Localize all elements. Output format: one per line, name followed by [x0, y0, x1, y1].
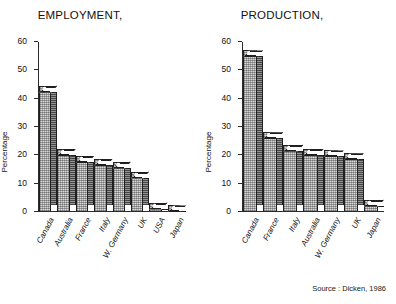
- panel-title-production: PRODUCTION,: [198, 9, 396, 21]
- bar-slot: [303, 42, 323, 211]
- bar-front-face: [263, 132, 277, 211]
- bar-group-employment: [39, 42, 186, 211]
- y-tick: 0: [34, 211, 38, 212]
- source-note: Source : Dicken, 1986: [312, 284, 386, 293]
- bar-slot: [131, 42, 149, 211]
- y-tick-label: 0: [226, 206, 231, 216]
- y-tick: 0: [238, 211, 242, 212]
- x-label-slot: France: [263, 214, 283, 298]
- bar-slot: [57, 42, 75, 211]
- y-tick: 60: [238, 41, 242, 42]
- y-tick-label: 10: [18, 178, 27, 188]
- x-axis-tick-label: Japan: [168, 216, 186, 239]
- y-tick-label: 10: [222, 178, 231, 188]
- bar-japan: [168, 205, 186, 211]
- y-tick-label: 60: [18, 36, 27, 46]
- bar-slot: [344, 42, 364, 211]
- y-tick-label: 20: [222, 149, 231, 159]
- bar-slot: [263, 42, 283, 211]
- x-label-slot: France: [76, 214, 95, 298]
- y-tick: 10: [34, 183, 38, 184]
- y-tick: 10: [238, 183, 242, 184]
- bar-slot: [76, 42, 94, 211]
- bar-front-face: [324, 150, 338, 211]
- bar-group-production: [243, 42, 384, 211]
- bar-slot: [168, 42, 186, 211]
- y-tick-label: 40: [18, 93, 27, 103]
- bar-slot: [39, 42, 57, 211]
- bar-front-face: [57, 149, 69, 211]
- x-label-slot: Canada: [39, 214, 58, 298]
- bar-slot: [149, 42, 167, 211]
- bar-front-face: [113, 162, 125, 211]
- bar-front-face: [283, 145, 297, 211]
- bar-side-face: [180, 211, 186, 212]
- bar-w-germany: [324, 150, 344, 211]
- y-tick: 20: [238, 154, 242, 155]
- bar-australia: [303, 149, 323, 211]
- y-tick: 20: [34, 154, 38, 155]
- y-tick-label: 0: [22, 206, 27, 216]
- bar-slot: [113, 42, 131, 211]
- x-axis-line-production: [242, 211, 384, 212]
- bar-front-face: [76, 156, 88, 211]
- x-axis-tick-label: Italy: [287, 216, 302, 233]
- bar-slot: [324, 42, 344, 211]
- bar-uk: [131, 172, 149, 211]
- y-tick-label: 30: [222, 121, 231, 131]
- x-axis-tick-label: France: [262, 216, 282, 242]
- x-label-slot: Japan: [169, 214, 188, 298]
- bar-slot: [94, 42, 112, 211]
- x-axis-tick-label: Canada: [240, 216, 261, 245]
- y-tick: 30: [238, 126, 242, 127]
- x-label-slot: UK: [132, 214, 151, 298]
- bar-front-face: [94, 159, 106, 211]
- y-tick-label: 60: [222, 36, 231, 46]
- bar-slot: [243, 42, 263, 211]
- x-label-slot: Australia: [58, 214, 77, 298]
- y-tick-label: 40: [222, 93, 231, 103]
- bar-canada: [243, 50, 263, 211]
- x-label-slot: Canada: [243, 214, 263, 298]
- bar-japan: [364, 200, 384, 211]
- y-tick: 40: [238, 98, 242, 99]
- x-axis-tick-label: Italy: [97, 216, 112, 233]
- plot-area-employment: 0102030405060: [38, 42, 186, 212]
- y-tick-label: 50: [222, 64, 231, 74]
- bar-front-face: [39, 86, 51, 211]
- x-label-slot: W. Germany: [113, 214, 132, 298]
- bar-australia: [57, 149, 75, 211]
- y-tick: 60: [34, 41, 38, 42]
- bar-front-face: [243, 50, 257, 211]
- x-axis-tick-label: France: [74, 216, 94, 242]
- x-axis-tick-label: Japan: [365, 216, 383, 239]
- y-tick: 50: [238, 69, 242, 70]
- bar-france: [263, 132, 283, 211]
- x-label-slot: USA: [150, 214, 169, 298]
- x-axis-line-employment: [38, 211, 186, 212]
- bar-italy: [283, 145, 303, 211]
- plot-area-production: 0102030405060: [242, 42, 384, 212]
- panel-title-employment: EMPLOYMENT,: [0, 9, 198, 21]
- bar-france: [76, 156, 94, 211]
- y-tick: 50: [34, 69, 38, 70]
- y-tick: 30: [34, 126, 38, 127]
- two-panel-bar-figure: EMPLOYMENT, Percentage 0102030405060 Can…: [0, 0, 396, 304]
- x-label-slot: Italy: [284, 214, 304, 298]
- y-axis-label-production: Percentage: [204, 132, 213, 173]
- bar-side-face: [378, 206, 384, 207]
- y-tick: 40: [34, 98, 38, 99]
- bar-slot: [283, 42, 303, 211]
- x-axis-tick-label: UK: [136, 216, 149, 230]
- bar-canada: [39, 86, 57, 211]
- bar-slot: [364, 42, 384, 211]
- bar-front-face: [344, 153, 358, 211]
- bar-uk: [344, 153, 364, 211]
- bar-usa: [149, 203, 167, 211]
- x-axis-tick-label: USA: [152, 216, 168, 235]
- bar-front-face: [303, 149, 317, 211]
- y-tick-label: 20: [18, 149, 27, 159]
- y-tick-label: 30: [18, 121, 27, 131]
- y-tick-label: 50: [18, 64, 27, 74]
- x-axis-tick-label: UK: [349, 216, 362, 230]
